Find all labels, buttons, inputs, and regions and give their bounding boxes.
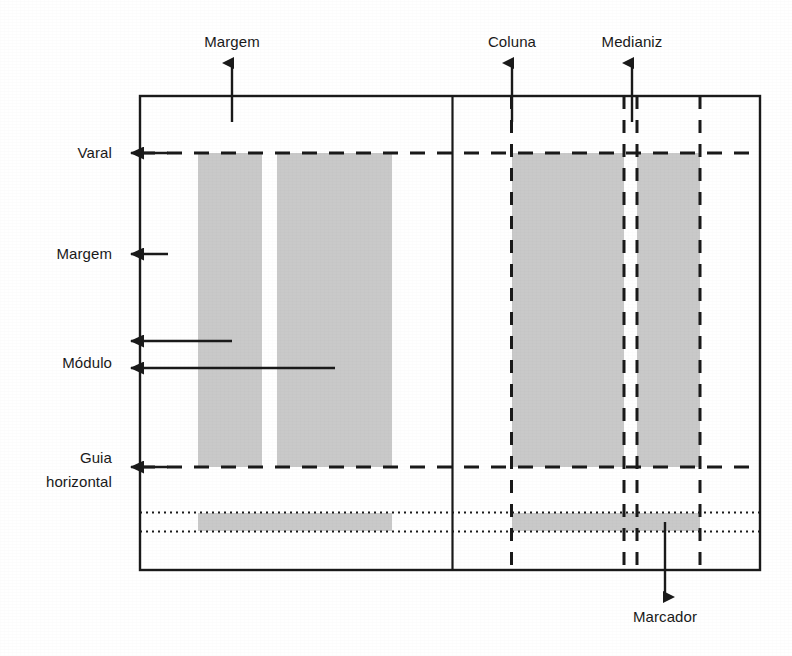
right-text-block-2	[637, 153, 700, 467]
diagram-vector-layer	[0, 0, 792, 656]
left-text-block-2	[277, 153, 392, 467]
footer-band-right	[512, 513, 700, 531]
diagram-canvas: Margem Coluna Medianiz Varal Margem Módu…	[0, 0, 792, 656]
footer-band-left	[198, 513, 392, 531]
right-text-block-1	[512, 153, 624, 467]
left-text-block-1	[198, 153, 262, 467]
